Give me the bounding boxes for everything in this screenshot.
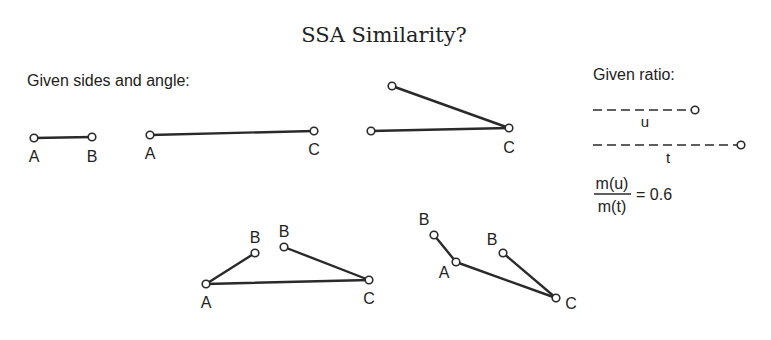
given-sides-label: Given sides and angle:: [27, 72, 190, 89]
label-a: A: [29, 148, 40, 165]
triangle2-side-ac: [456, 262, 556, 298]
label-b: B: [487, 231, 498, 248]
point-c[interactable]: [552, 294, 560, 302]
triangle1-side-ab: [206, 253, 255, 284]
label-a: A: [439, 264, 450, 281]
ssa-diagram-canvas: SSA Similarity? Given sides and angle:: [0, 0, 771, 340]
angle-ray-endpoint[interactable]: [367, 127, 375, 135]
point-a[interactable]: [452, 258, 460, 266]
point-c[interactable]: [505, 124, 513, 132]
label-c: C: [363, 290, 375, 307]
angle-ray-lower: [371, 128, 509, 131]
label-c: C: [308, 141, 320, 158]
label-b: B: [279, 223, 290, 240]
page-title: SSA Similarity?: [301, 23, 467, 47]
triangle2-side-bc: [503, 253, 556, 298]
point-b[interactable]: [251, 249, 259, 257]
point-c[interactable]: [365, 276, 373, 284]
point-b[interactable]: [280, 243, 288, 251]
label-b: B: [87, 148, 98, 165]
segment-u-endpoint[interactable]: [691, 106, 699, 114]
label-c: C: [565, 295, 577, 312]
angle-ray-endpoint[interactable]: [388, 82, 396, 90]
segment-t-label: t: [666, 149, 671, 166]
triangle1-side-bc: [284, 247, 369, 280]
label-a: A: [145, 145, 156, 162]
label-b: B: [419, 211, 430, 228]
label-b: B: [250, 229, 261, 246]
triangle1-side-ac: [206, 280, 369, 284]
segment-ac: [150, 131, 314, 135]
angle-ray-upper: [392, 86, 509, 128]
point-b[interactable]: [499, 249, 507, 257]
ratio-value: = 0.6: [636, 186, 672, 203]
point-b[interactable]: [430, 231, 438, 239]
point-a[interactable]: [202, 280, 210, 288]
ratio-numerator: m(u): [596, 175, 629, 192]
label-c: C: [503, 139, 515, 156]
segment-ab: [34, 137, 92, 138]
point-a[interactable]: [146, 131, 154, 139]
ratio-denominator: m(t): [598, 198, 626, 215]
given-ratio-label: Given ratio:: [593, 66, 675, 83]
triangle2-side-ab: [434, 235, 456, 262]
point-c[interactable]: [310, 127, 318, 135]
segment-u-label: u: [641, 113, 649, 130]
point-b[interactable]: [88, 133, 96, 141]
point-a[interactable]: [30, 134, 38, 142]
label-a: A: [201, 294, 212, 311]
segment-t-endpoint[interactable]: [737, 141, 745, 149]
